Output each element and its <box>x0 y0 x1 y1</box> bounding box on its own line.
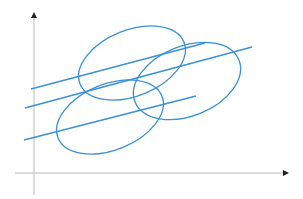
ellipse-lower <box>46 65 175 168</box>
ellipses <box>46 11 252 168</box>
x-axis-arrow-icon <box>283 170 289 176</box>
diagram-svg <box>0 0 303 199</box>
regression-lines <box>24 43 252 140</box>
diagram-canvas <box>0 0 303 199</box>
line-bottom <box>24 96 196 140</box>
line-middle <box>25 47 252 108</box>
axes <box>15 12 289 195</box>
y-axis-arrow-icon <box>31 12 37 18</box>
ellipse-upper-left <box>68 11 197 114</box>
